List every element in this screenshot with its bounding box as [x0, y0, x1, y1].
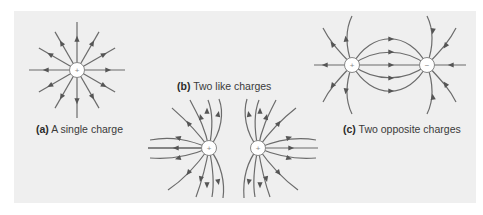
caption-c-text: Two opposite charges — [359, 123, 461, 135]
caption-c-letter: (c) — [343, 123, 356, 135]
caption-b: (b) Two like charges — [177, 80, 271, 92]
charge-sign-b1: + — [207, 144, 212, 153]
charge-sign-c2: − — [425, 61, 430, 70]
caption-a-text: A single charge — [51, 123, 123, 135]
charge-sign-c1: + — [350, 61, 355, 70]
charges — [70, 58, 435, 156]
caption-b-letter: (b) — [177, 80, 190, 92]
caption-c: (c) Two opposite charges — [343, 123, 461, 135]
field-lines-diagram: + + + + − — [0, 0, 483, 215]
charge-sign-a: + — [75, 66, 80, 75]
charge-sign-b2: + — [256, 144, 261, 153]
caption-a: (a) A single charge — [36, 123, 123, 135]
caption-a-letter: (a) — [36, 123, 49, 135]
caption-b-text: Two like charges — [193, 80, 271, 92]
